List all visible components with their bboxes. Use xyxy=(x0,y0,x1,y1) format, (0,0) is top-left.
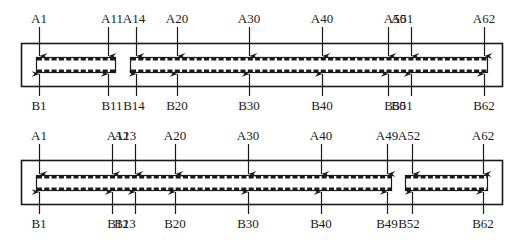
pin-label-b: B14 xyxy=(123,98,145,113)
pin-label-a: A11 xyxy=(101,11,123,26)
pin-label-a: A13 xyxy=(114,128,136,143)
pin-label-a: A30 xyxy=(237,128,259,143)
pin-label-b: B1 xyxy=(31,98,46,113)
pin-label-a: A20 xyxy=(164,128,186,143)
pin-label-b: B11 xyxy=(101,98,122,113)
pin-label-a: A62 xyxy=(473,11,495,26)
contact-slot xyxy=(37,176,392,191)
connector-bottom: A1B1A12B12A13B13A20B20A30B30A40B40A49B49… xyxy=(22,128,503,231)
pin-label-a: A49 xyxy=(376,128,398,143)
pin-label-b: B20 xyxy=(164,216,186,231)
pin-label-b: B20 xyxy=(166,98,188,113)
pin-label-a: A40 xyxy=(310,128,332,143)
pin-label-a: A62 xyxy=(472,128,494,143)
pin-label-b: B13 xyxy=(114,216,136,231)
pin-label-b: B49 xyxy=(376,216,398,231)
pin-label-a: A1 xyxy=(31,11,47,26)
connector-top: A1B1A11B11A14B14A20B20A30B30A40B40A50B50… xyxy=(22,11,503,113)
pin-label-a: A14 xyxy=(123,11,146,26)
pin-label-b: B1 xyxy=(31,216,46,231)
contact-slot xyxy=(37,58,116,73)
pin-label-a: A1 xyxy=(31,128,47,143)
pin-label-a: A30 xyxy=(238,11,260,26)
pin-label-b: B40 xyxy=(310,216,332,231)
pin-label-b: B51 xyxy=(391,98,413,113)
pin-label-a: A52 xyxy=(398,128,420,143)
contact-slot xyxy=(406,176,488,191)
pin-label-b: B62 xyxy=(472,216,494,231)
contact-slot xyxy=(131,58,488,73)
pin-label-b: B40 xyxy=(311,98,333,113)
pin-label-a: A40 xyxy=(311,11,333,26)
pin-label-b: B52 xyxy=(398,216,420,231)
pin-label-b: B30 xyxy=(238,98,260,113)
connector-pinout-diagram: A1B1A11B11A14B14A20B20A30B30A40B40A50B50… xyxy=(0,0,519,244)
pin-label-b: B30 xyxy=(237,216,259,231)
pin-label-a: A51 xyxy=(391,11,413,26)
pin-label-b: B62 xyxy=(473,98,495,113)
pin-label-a: A20 xyxy=(166,11,188,26)
